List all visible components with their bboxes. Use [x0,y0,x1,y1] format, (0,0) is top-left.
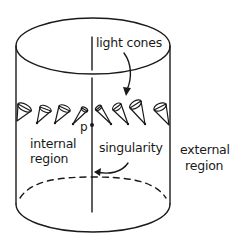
label-point-p: p [80,120,87,134]
label-internal-region-line2: region [30,152,68,166]
label-light-cones: light cones [96,36,162,50]
light-cone-3 [55,103,71,123]
singularity-arrowhead [94,168,101,176]
light-cone-6 [111,102,128,124]
light-cones-arrowhead [123,87,131,96]
light-cone-8 [153,101,169,125]
singularity-arrow [96,163,128,173]
light-cone-1 [16,101,33,121]
label-external-region-line2: region [185,159,223,173]
cylinder-bottom-arc [16,204,170,232]
spacetime-cylinder-diagram: light cones p internal region singularit… [0,0,242,245]
label-internal-region-line1: internal [30,137,76,151]
label-external-region-line1: external [180,143,230,157]
light-cone-2 [37,104,52,123]
label-singularity: singularity [99,141,163,155]
light-cone-7 [128,98,145,124]
cylinder-bottom-back-dashed [20,177,166,198]
point-p-dot [90,123,94,127]
light-cone-5 [95,104,111,124]
